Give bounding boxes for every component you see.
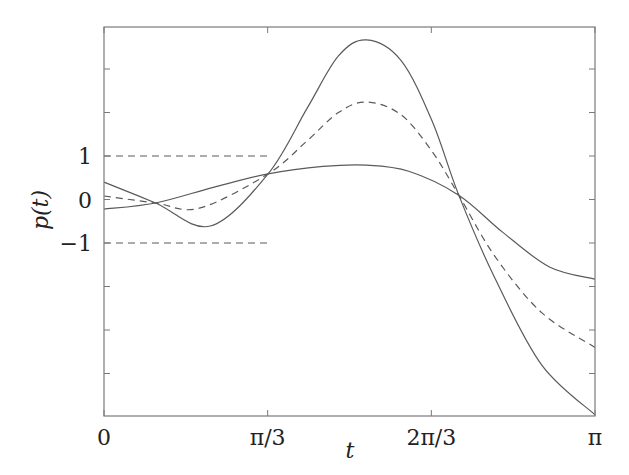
x-tick-label: π/3: [250, 425, 286, 450]
tick-marks: [104, 27, 595, 416]
x-tick-label: π: [588, 425, 602, 450]
plot-frame: [104, 27, 595, 416]
y-tick-label: 0: [78, 188, 92, 213]
series-flat-solid: [104, 165, 595, 279]
y-axis-label: p(t): [28, 190, 53, 230]
y-tick-label: 1: [78, 144, 92, 169]
y-tick-label: −1: [60, 231, 92, 256]
line-chart: 0π/32π/3π10−1 t p(t): [0, 0, 629, 475]
x-tick-label: 0: [97, 425, 111, 450]
series-dashed-mean: [104, 102, 595, 347]
series-oscillating-solid: [104, 40, 595, 415]
tick-labels: 0π/32π/3π10−1: [60, 144, 603, 450]
x-axis-label: t: [346, 438, 355, 463]
series-layer: [104, 40, 595, 415]
x-tick-label: 2π/3: [406, 425, 456, 450]
